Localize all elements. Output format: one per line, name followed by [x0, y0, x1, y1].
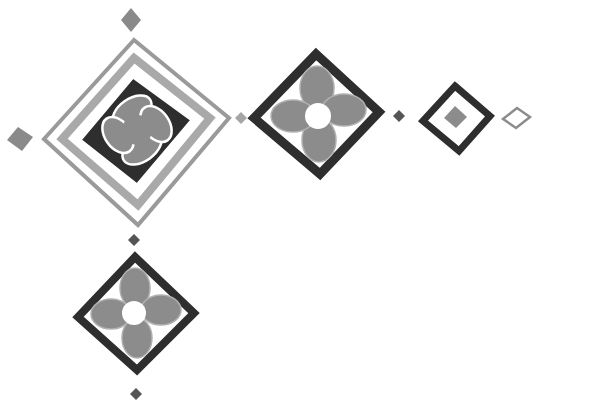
accent-diamond-right-1	[235, 112, 247, 124]
accent-diamond-left	[7, 127, 33, 151]
tiny-outline-diamond	[503, 108, 530, 128]
tile-motif-illustration	[0, 0, 590, 409]
accent-diamond-below-2	[130, 388, 142, 400]
lower-flower-tile	[78, 257, 194, 370]
small-square-tile	[423, 86, 490, 151]
accent-diamond-top	[121, 8, 141, 32]
accent-dots	[7, 8, 405, 400]
large-quatrefoil-tile	[44, 40, 229, 225]
accent-diamond-right-2	[393, 110, 405, 122]
medium-flower-tile	[254, 54, 379, 174]
accent-diamond-below-1	[128, 234, 140, 246]
